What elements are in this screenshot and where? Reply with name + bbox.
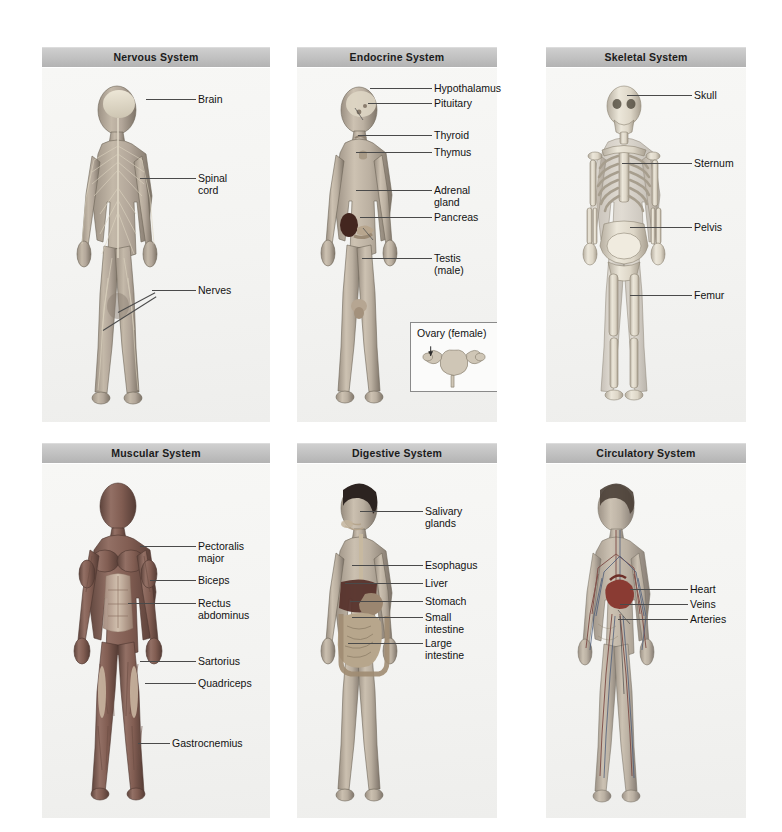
leader-nerves xyxy=(152,290,196,291)
leader-pancreas xyxy=(360,217,432,218)
figure-nervous-body xyxy=(42,68,270,422)
leader-stomach xyxy=(350,601,423,602)
leader-arteries xyxy=(618,619,688,620)
label-biceps: Biceps xyxy=(198,575,230,587)
leader-brain xyxy=(146,99,196,100)
label-small-intestine: Small intestine xyxy=(425,612,464,635)
leader-pectoralis-major xyxy=(140,546,196,547)
panel-title-muscular: Muscular System xyxy=(111,448,200,459)
label-pituitary: Pituitary xyxy=(434,98,472,110)
leader-sartorius xyxy=(140,661,196,662)
label-rectus-abdominus: Rectus abdominus xyxy=(198,598,249,621)
label-thyroid: Thyroid xyxy=(434,130,469,142)
leader-testis xyxy=(362,258,432,259)
anatomy-poster: Nervous System xyxy=(0,0,782,832)
leader-esophagus xyxy=(352,565,423,566)
leader-thymus xyxy=(356,152,432,153)
leader-small-intestine xyxy=(352,617,423,618)
label-pancreas: Pancreas xyxy=(434,212,478,224)
panel-body-nervous xyxy=(42,68,270,422)
label-adrenal-gland: Adrenal gland xyxy=(434,185,470,208)
panel-title-digestive: Digestive System xyxy=(352,448,442,459)
leader-heart xyxy=(630,589,688,590)
leader-gastrocnemius xyxy=(138,743,170,744)
panel-circulatory-system: Circulatory System xyxy=(546,443,746,818)
label-sternum: Sternum xyxy=(694,158,734,170)
label-hypothalamus: Hypothalamus xyxy=(434,83,501,95)
label-gastrocnemius: Gastrocnemius xyxy=(172,738,243,750)
label-heart: Heart xyxy=(690,584,716,596)
panel-header-circulatory: Circulatory System xyxy=(546,443,746,463)
panel-header-skeletal: Skeletal System xyxy=(546,47,746,67)
panel-nervous-system: Nervous System xyxy=(42,47,270,422)
label-large-intestine: Large intestine xyxy=(425,638,464,661)
panel-header-nervous: Nervous System xyxy=(42,47,270,67)
panel-title-endocrine: Endocrine System xyxy=(350,52,445,63)
panel-title-circulatory: Circulatory System xyxy=(596,448,695,459)
label-testis: Testis (male) xyxy=(434,253,464,276)
panel-title-skeletal: Skeletal System xyxy=(605,52,688,63)
label-salivary-glands: Salivary glands xyxy=(425,506,462,529)
label-skull: Skull xyxy=(694,90,717,102)
label-arteries: Arteries xyxy=(690,614,726,626)
panel-muscular-system: Muscular System xyxy=(42,443,270,818)
label-stomach: Stomach xyxy=(425,596,466,608)
leader-large-intestine xyxy=(348,643,423,644)
leader-biceps xyxy=(150,580,196,581)
panel-title-nervous: Nervous System xyxy=(113,52,198,63)
figure-muscular-body xyxy=(42,464,270,818)
figure-circulatory-body xyxy=(546,464,746,818)
leader-salivary-glands xyxy=(360,511,423,512)
leader-pituitary xyxy=(368,103,432,104)
label-veins: Veins xyxy=(690,599,716,611)
panel-digestive-system: Digestive System xyxy=(297,443,497,818)
ovary-inset: Ovary (female) xyxy=(410,322,497,392)
label-esophagus: Esophagus xyxy=(425,560,478,572)
panel-header-muscular: Muscular System xyxy=(42,443,270,463)
panel-skeletal-system: Skeletal System xyxy=(546,47,746,422)
panel-body-digestive xyxy=(297,464,497,818)
leader-quadriceps xyxy=(145,683,196,684)
leader-adrenal-gland xyxy=(356,190,432,191)
leader-pelvis xyxy=(630,227,692,228)
leader-hypothalamus xyxy=(370,88,432,89)
panel-header-digestive: Digestive System xyxy=(297,443,497,463)
leader-skull xyxy=(627,95,692,96)
leader-rectus-abdominus xyxy=(128,603,196,604)
label-brain: Brain xyxy=(198,94,223,106)
label-quadriceps: Quadriceps xyxy=(198,678,252,690)
leader-sternum xyxy=(622,163,692,164)
panel-body-circulatory xyxy=(546,464,746,818)
leader-thyroid xyxy=(358,135,432,136)
panel-body-skeletal xyxy=(546,68,746,422)
panel-header-endocrine: Endocrine System xyxy=(297,47,497,67)
label-femur: Femur xyxy=(694,290,724,302)
panel-body-endocrine: Ovary (female) xyxy=(297,68,497,422)
label-spinal-cord: Spinal cord xyxy=(198,173,227,196)
figure-skeletal-body xyxy=(546,68,746,422)
figure-digestive-body xyxy=(297,464,497,818)
leader-femur xyxy=(630,295,692,296)
label-thymus: Thymus xyxy=(434,147,471,159)
leader-veins xyxy=(620,604,688,605)
label-pectoralis-major: Pectoralis major xyxy=(198,541,244,564)
leader-spinal-cord xyxy=(140,178,196,179)
leader-liver xyxy=(345,583,423,584)
label-nerves: Nerves xyxy=(198,285,231,297)
panel-body-muscular xyxy=(42,464,270,818)
label-pelvis: Pelvis xyxy=(694,222,722,234)
label-sartorius: Sartorius xyxy=(198,656,240,668)
label-liver: Liver xyxy=(425,578,448,590)
